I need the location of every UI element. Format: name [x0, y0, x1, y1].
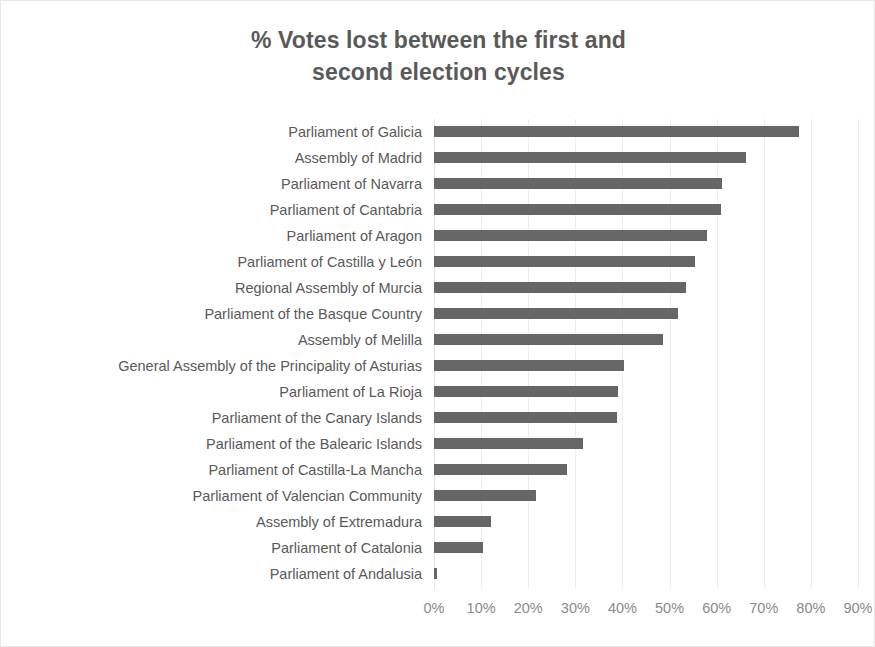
bar — [434, 438, 583, 449]
bar — [434, 126, 799, 137]
bar — [434, 204, 721, 215]
category-label: Parliament of the Canary Islands — [2, 405, 422, 431]
bar-row: Assembly of Madrid — [434, 145, 858, 171]
bar-rows: Parliament of GaliciaAssembly of MadridP… — [434, 119, 858, 587]
bar-row: General Assembly of the Principality of … — [434, 353, 858, 379]
plot-area: Parliament of GaliciaAssembly of MadridP… — [434, 119, 858, 589]
bar — [434, 152, 746, 163]
bar-row: Parliament of Catalonia — [434, 535, 858, 561]
bar — [434, 282, 686, 293]
x-axis-tick-labels: 0%10%20%30%40%50%60%70%80%90% — [434, 595, 858, 621]
bar — [434, 516, 491, 527]
category-label: Parliament of the Basque Country — [2, 301, 422, 327]
category-label: Parliament of Castilla-La Mancha — [2, 457, 422, 483]
bar — [434, 412, 617, 423]
gridline — [858, 119, 859, 589]
bar — [434, 308, 678, 319]
category-label: Assembly of Melilla — [2, 327, 422, 353]
bar — [434, 178, 722, 189]
bar-row: Parliament of Castilla y León — [434, 249, 858, 275]
category-label: Regional Assembly of Murcia — [2, 275, 422, 301]
bar-row: Parliament of the Balearic Islands — [434, 431, 858, 457]
bar-row: Parliament of Valencian Community — [434, 483, 858, 509]
bar-row: Assembly of Melilla — [434, 327, 858, 353]
bar — [434, 542, 483, 553]
bar — [434, 490, 536, 501]
bar — [434, 464, 567, 475]
bar-row: Assembly of Extremadura — [434, 509, 858, 535]
bar — [434, 334, 663, 345]
bar-chart: % Votes lost between the first and secon… — [0, 0, 875, 647]
category-label: Parliament of the Balearic Islands — [2, 431, 422, 457]
x-tick-label: 90% — [828, 595, 875, 621]
category-label: Assembly of Madrid — [2, 145, 422, 171]
category-label: Parliament of Galicia — [2, 119, 422, 145]
bar-row: Parliament of the Basque Country — [434, 301, 858, 327]
category-label: Parliament of Cantabria — [2, 197, 422, 223]
category-label: General Assembly of the Principality of … — [2, 353, 422, 379]
category-label: Parliament of Andalusia — [2, 561, 422, 587]
category-label: Assembly of Extremadura — [2, 509, 422, 535]
bar-row: Parliament of Cantabria — [434, 197, 858, 223]
bar-row: Parliament of Castilla-La Mancha — [434, 457, 858, 483]
bar-row: Parliament of Andalusia — [434, 561, 858, 587]
bar-row: Regional Assembly of Murcia — [434, 275, 858, 301]
category-label: Parliament of Valencian Community — [2, 483, 422, 509]
bar — [434, 230, 707, 241]
bar-row: Parliament of Aragon — [434, 223, 858, 249]
category-label: Parliament of Aragon — [2, 223, 422, 249]
bar — [434, 386, 618, 397]
bar-row: Parliament of Galicia — [434, 119, 858, 145]
bar-row: Parliament of La Rioja — [434, 379, 858, 405]
category-label: Parliament of La Rioja — [2, 379, 422, 405]
bar — [434, 360, 624, 371]
category-label: Parliament of Navarra — [2, 171, 422, 197]
chart-title: % Votes lost between the first and secon… — [1, 25, 875, 88]
bar-row: Parliament of Navarra — [434, 171, 858, 197]
bar — [434, 568, 437, 579]
category-label: Parliament of Castilla y León — [2, 249, 422, 275]
category-label: Parliament of Catalonia — [2, 535, 422, 561]
bar-row: Parliament of the Canary Islands — [434, 405, 858, 431]
bar — [434, 256, 695, 267]
